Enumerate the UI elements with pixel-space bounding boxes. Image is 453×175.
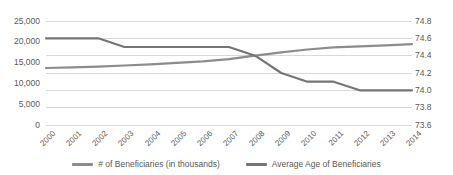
legend-label-beneficiaries: # of Beneficiaries (in thousands) xyxy=(98,159,219,169)
legend-item-average-age: Average Age of Beneficiaries xyxy=(246,159,381,169)
right-axis-tick: 74.4 xyxy=(415,51,445,60)
right-axis-tick: 74.8 xyxy=(415,17,445,26)
left-axis-tick: 20,000 xyxy=(0,37,40,46)
right-axis-tick: 74.2 xyxy=(415,69,445,78)
legend-label-average-age: Average Age of Beneficiaries xyxy=(272,159,381,169)
right-axis-tick: 74.6 xyxy=(415,34,445,43)
right-axis-tick: 74.0 xyxy=(415,86,445,95)
chart-panel: 25,00020,00015,00010,0005,0000 74.874.67… xyxy=(0,0,453,175)
chart-legend: # of Beneficiaries (in thousands) Averag… xyxy=(0,159,453,169)
average-age-line-marker-icon xyxy=(246,163,267,166)
left-axis-tick: 0 xyxy=(0,121,40,130)
left-axis-tick: 25,000 xyxy=(0,17,40,26)
beneficiaries-line-marker-icon xyxy=(72,163,93,166)
right-axis-tick: 73.6 xyxy=(415,121,445,130)
right-axis-tick: 73.8 xyxy=(415,103,445,112)
legend-item-beneficiaries: # of Beneficiaries (in thousands) xyxy=(72,159,219,169)
left-axis-tick: 10,000 xyxy=(0,79,40,88)
left-axis-tick: 15,000 xyxy=(0,58,40,67)
left-axis-tick: 5,000 xyxy=(0,100,40,109)
